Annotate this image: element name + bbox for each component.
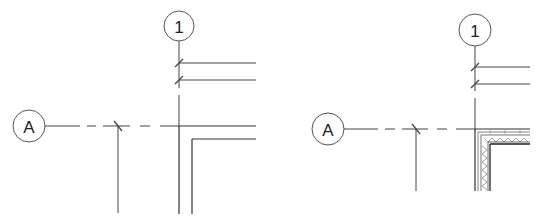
grid-bubble-a-right[interactable]: A: [312, 113, 344, 145]
left-diagram: 1 A: [13, 11, 256, 214]
grid-label-a-left: A: [23, 118, 35, 137]
insulation-hatch-vertical: [482, 146, 487, 190]
grid-label-1-left: 1: [174, 18, 183, 37]
grid-label-a-right: A: [322, 121, 334, 140]
grid-diagram-canvas: 1 A 1: [0, 0, 540, 221]
wall-corner-simple: [179, 126, 256, 214]
wall-corner-layered: [475, 129, 530, 191]
grid-bubble-a-left[interactable]: A: [13, 110, 45, 142]
right-diagram: 1 A: [312, 14, 530, 191]
grid-bubble-1-left[interactable]: 1: [164, 11, 194, 41]
grid-label-1-right: 1: [470, 22, 479, 41]
insulation-hatch-horizontal: [484, 138, 528, 142]
grid-bubble-1-right[interactable]: 1: [459, 14, 491, 46]
